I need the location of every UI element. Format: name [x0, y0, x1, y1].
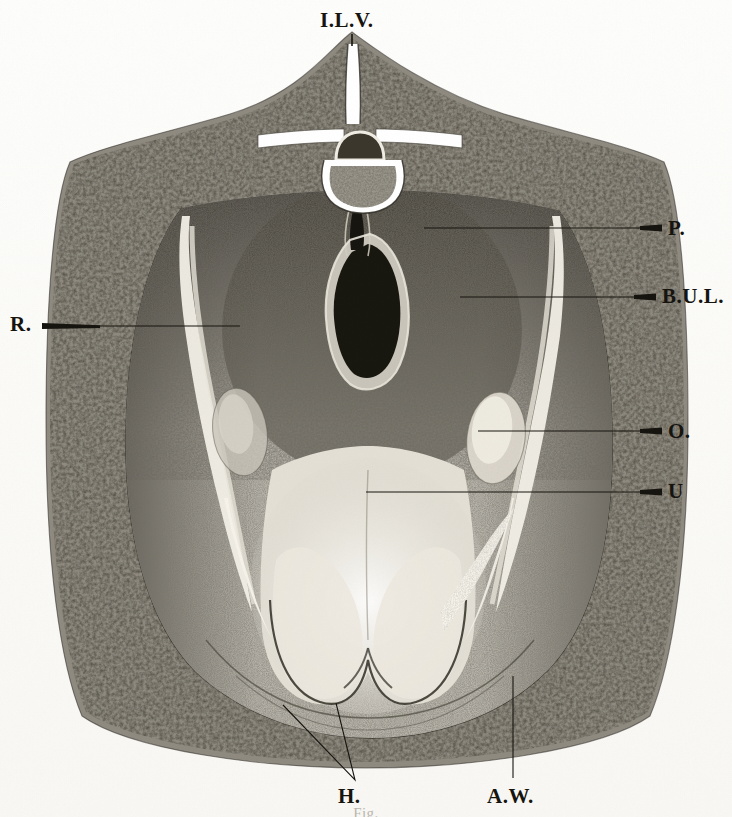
paper-mottle	[0, 0, 732, 817]
label-o: O.	[668, 419, 691, 444]
anatomical-plate	[0, 0, 732, 817]
cut-off-caption: Fig.	[0, 806, 732, 817]
label-r: R.	[10, 312, 31, 337]
label-p: P.	[668, 216, 685, 241]
label-ilv: I.L.V.	[320, 8, 373, 33]
label-u: U	[668, 479, 684, 504]
label-bul: B.U.L.	[662, 284, 724, 309]
